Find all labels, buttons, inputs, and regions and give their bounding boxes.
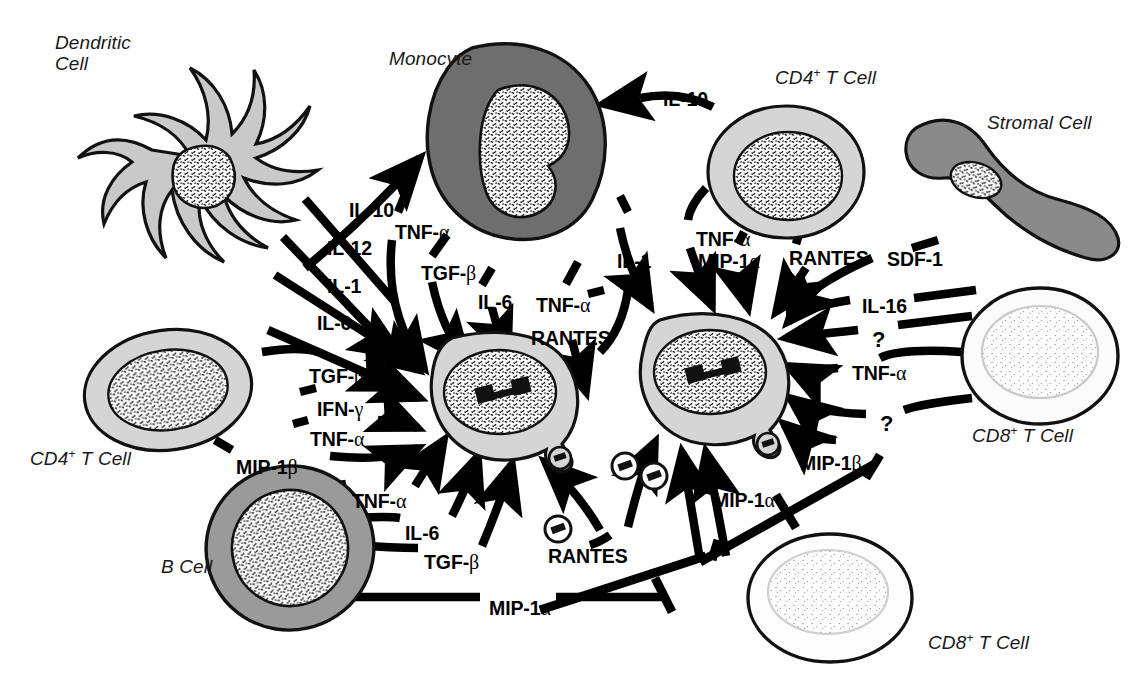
mediator-text: MIP-1 [800, 452, 852, 474]
mediator-label-sdf1-str: SDF-1 [887, 248, 943, 271]
line-tnfa-mono-stub [398, 188, 408, 212]
mediator-label-il6-mono: IL-6 [478, 291, 512, 314]
mediator-text: IL-10 [349, 199, 394, 221]
mediator-greek-suffix: α [896, 362, 906, 384]
mediator-greek-suffix: γ [355, 398, 364, 420]
cell-dendritic-cell[interactable] [78, 68, 318, 262]
cell-stromal-cell[interactable] [906, 120, 1119, 260]
mediator-text: RANTES [531, 327, 611, 349]
mediator-greek-suffix: α [439, 221, 449, 243]
mediator-greek-suffix: β [354, 365, 364, 387]
virion-icon-2 [641, 463, 667, 489]
line-q2 [790, 398, 866, 414]
line-tnfa-cd8r [788, 366, 838, 370]
mediator-text: IL-6 [317, 312, 351, 334]
mediator-label-mip1a-cd4t: MIP-1α [698, 250, 760, 273]
mediator-text: MIP-1 [489, 597, 541, 619]
cell-b-cell[interactable] [191, 450, 389, 645]
mediator-text: TNF- [852, 362, 896, 384]
stromal-cytoplasm [906, 120, 1119, 260]
line-tnfa-bcell [415, 440, 444, 486]
cd4-left-tail: T Cell [75, 448, 131, 469]
mediator-label-mip1b-cd4l: MIP-1β [236, 456, 298, 479]
mediator-label-tgfb-mono: TGF-β [421, 262, 476, 285]
mediator-text: TNF- [352, 490, 396, 512]
mediator-label-rantes-ctr: RANTES [531, 327, 611, 350]
mediator-text: ? [880, 411, 893, 436]
mediator-label-tnfa-mono: TNF-α [395, 221, 449, 244]
cd8-right-tail: T Cell [1017, 425, 1073, 446]
mediator-label-q1-cd8r: ? [872, 327, 885, 353]
line-q1-stub [898, 316, 972, 325]
mediator-label-il10-cd4t: IL-10 [663, 88, 708, 111]
mediator-text: TNF- [395, 221, 439, 243]
mediator-greek-suffix: α [396, 490, 406, 512]
mediator-text: IL-16 [862, 295, 907, 317]
tbar-cd8b [712, 540, 718, 560]
dendritic-label-line1: Dendritic [55, 32, 131, 53]
mediator-greek-suffix: β [466, 262, 476, 284]
mediator-label-il6-dc: IL-6 [317, 312, 351, 335]
line-tgfb-bcell [482, 464, 512, 546]
cd8-bottom-base: CD8 [928, 632, 966, 653]
line-ifng-cd4l [378, 390, 420, 398]
budding-virion-right [757, 433, 779, 455]
mediator-greek-suffix: α [354, 428, 364, 450]
virion-icon-1 [612, 453, 638, 479]
label-cd8-t-cell-right: CD8+ T Cell [972, 425, 1073, 447]
line-il1-mono-stub [620, 196, 628, 212]
line-ifng-stub [300, 388, 316, 392]
cell-infected-cell-right[interactable] [640, 314, 788, 458]
mediator-text: TGF- [309, 365, 354, 387]
mediator-label-tnfa-ctr: TNF-α [536, 294, 590, 317]
cd8-right-nucleus [982, 306, 1098, 398]
cell-cd8-t-cell-right[interactable] [962, 288, 1118, 424]
line-tgfb-cd4l-stub [262, 349, 318, 352]
cd4-top-base: CD4 [775, 67, 813, 88]
cell-monocyte[interactable] [427, 44, 605, 240]
mediator-label-rantes-cd4t: RANTES [789, 247, 869, 270]
line-tnfa-cd4l-stub [293, 420, 308, 424]
mediator-text: SDF-1 [887, 248, 943, 270]
line-il10-cd4t-b [603, 98, 640, 104]
cell-cd4-t-cell-left[interactable] [76, 319, 259, 461]
mediator-text: TGF- [421, 262, 466, 284]
mediator-label-il12-dc: IL-12 [327, 237, 372, 260]
cd8-bottom-tail: T Cell [973, 632, 1029, 653]
mediator-text: TNF- [310, 428, 354, 450]
mediator-label-tnfa-cd4t: TNF-α [696, 228, 750, 251]
mediator-label-il10-dc: IL-10 [349, 199, 394, 222]
label-cd4-t-cell-top: CD4+ T Cell [775, 67, 876, 89]
cd4-top-nucleus [734, 132, 842, 220]
tbar-top-right [866, 455, 880, 478]
mediator-label-il1-dc: IL-1 [327, 275, 361, 298]
virion-icon-3 [545, 516, 571, 542]
mediator-label-mip1a-bcell: MIP-1α [489, 597, 551, 620]
mediator-text: TGF- [424, 551, 469, 573]
mediator-text: IL-12 [327, 237, 372, 259]
label-dendritic-cell: Dendritic Cell [55, 32, 131, 75]
dendritic-label-line2: Cell [55, 53, 88, 74]
line-tnfa-cd4t-stub [688, 188, 706, 220]
cd4-top-tail: T Cell [820, 67, 876, 88]
cell-infected-cell-left[interactable] [431, 333, 577, 472]
mediator-label-tgfb-bcell: TGF-β [424, 551, 479, 574]
label-monocyte: Monocyte [389, 48, 472, 69]
line-q1 [786, 330, 858, 338]
mediator-text: IL-6 [405, 522, 439, 544]
mediator-text: RANTES [789, 247, 869, 269]
cd4-left-base: CD4 [30, 448, 68, 469]
diagram-canvas: Dendritic Cell Monocyte CD4+ T Cell Stro… [0, 0, 1146, 690]
mediator-text: IL-10 [663, 88, 708, 110]
mediator-text: IL-6 [478, 291, 512, 313]
line-mip1b-stub [215, 440, 232, 450]
line-il6-mono-stub [482, 268, 492, 285]
mediator-greek-suffix: α [541, 597, 551, 619]
line-sdf1-stub [912, 240, 938, 248]
mediator-greek-suffix: α [740, 228, 750, 250]
mediator-label-tnfa-bcell: TNF-α [352, 490, 406, 513]
mediator-text: TNF- [696, 228, 740, 250]
cell-cd8-t-cell-bottom[interactable] [748, 534, 912, 662]
label-cd8-t-cell-bottom: CD8+ T Cell [928, 632, 1029, 654]
cell-cd4-t-cell-top[interactable] [708, 106, 864, 238]
